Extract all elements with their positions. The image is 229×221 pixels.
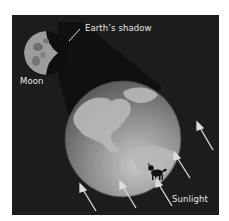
- sunlight-label: Sunlight: [172, 195, 208, 204]
- sunlight-arrow-icon: [197, 122, 213, 150]
- earth-shadow-label: Earth’s shadow: [85, 24, 152, 33]
- sunlight-arrow-icon: [174, 152, 190, 178]
- diagram-canvas: [12, 15, 219, 215]
- moon-label: Moon: [20, 77, 44, 86]
- earth-icon: [65, 81, 181, 197]
- sunlight-arrow-icon: [156, 179, 172, 206]
- diagram-frame: Earth’s shadow Moon Sunlight: [12, 15, 219, 215]
